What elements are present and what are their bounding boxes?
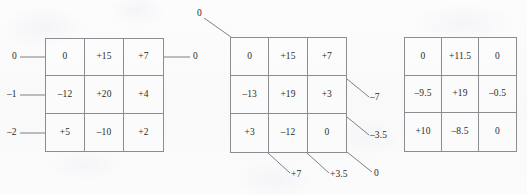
cell-r2c1: –10 [85, 114, 124, 151]
cell-r1c1: +20 [85, 76, 124, 113]
leader-mid-right-mid [347, 117, 369, 135]
grid-middle: 0 +15 +7 –13 +19 +3 +3 –12 0 [230, 37, 347, 153]
cell-r0c2: 0 [479, 38, 516, 76]
cell-r0c0: 0 [405, 38, 442, 76]
cell-r0c1: +11.5 [442, 38, 479, 76]
cell-r1c0: –9.5 [405, 76, 442, 114]
cell-r2c0: +10 [405, 113, 442, 151]
cell-r0c2: +7 [124, 39, 163, 76]
leader-mid-right-lower [347, 152, 372, 172]
cell-r0c1: +15 [85, 39, 124, 76]
cell-r1c2: +3 [308, 76, 346, 114]
cell-r2c2: 0 [479, 113, 516, 151]
leader-mid-bottom-mid [307, 153, 329, 173]
label-middle-bottom-mid: +3.5 [330, 170, 348, 180]
cell-r2c2: +2 [124, 114, 163, 151]
grid-right: 0 +11.5 0 –9.5 +19 –0.5 +10 –8.5 0 [404, 37, 517, 152]
grid-left: 0 +15 +7 –12 +20 +4 +5 –10 +2 [45, 38, 164, 152]
cell-r2c1: –12 [269, 114, 307, 152]
cell-r0c2: +7 [308, 38, 346, 76]
label-left-row1: –1 [7, 90, 17, 100]
leader-mid-bottom-left [268, 153, 290, 173]
label-middle-right-mid: –3.5 [370, 131, 387, 141]
figure-canvas: 0 +15 +7 –12 +20 +4 +5 –10 +2 0 –1 –2 0 … [0, 0, 527, 195]
leader-mid-top0 [204, 18, 231, 37]
cell-r1c2: +4 [124, 76, 163, 113]
cell-r0c1: +15 [269, 38, 307, 76]
cell-r1c1: +19 [269, 76, 307, 114]
cell-r2c2: 0 [308, 114, 346, 152]
leader-mid-right-upper [347, 79, 369, 97]
cell-r0c0: 0 [231, 38, 269, 76]
cell-r2c0: +3 [231, 114, 269, 152]
cell-r2c0: +5 [46, 114, 85, 151]
cell-r1c0: –12 [46, 76, 85, 113]
label-middle-right-upper: –7 [370, 93, 380, 103]
label-middle-bottom-left: +7 [291, 170, 301, 180]
label-middle-top: 0 [197, 9, 202, 19]
label-left-row0: 0 [12, 52, 17, 62]
label-left-right0: 0 [193, 52, 198, 62]
cell-r2c1: –8.5 [442, 113, 479, 151]
cell-r0c0: 0 [46, 39, 85, 76]
label-left-row2: –2 [7, 128, 17, 138]
cell-r1c2: –0.5 [479, 76, 516, 114]
cell-r1c1: +19 [442, 76, 479, 114]
label-middle-right-lower: 0 [374, 169, 379, 179]
cell-r1c0: –13 [231, 76, 269, 114]
